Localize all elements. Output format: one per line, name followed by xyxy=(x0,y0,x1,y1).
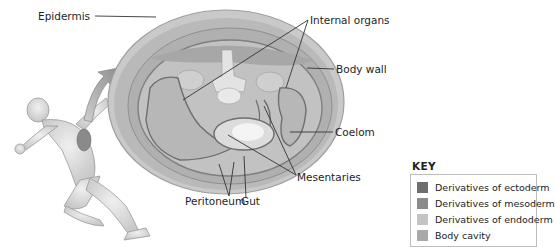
gut-on-figure xyxy=(77,129,91,151)
label-internal-organs: Internal organs xyxy=(310,14,390,26)
legend-item-endoderm: Derivatives of endoderm xyxy=(417,211,532,227)
swatch-endoderm xyxy=(417,214,428,225)
swatch-ectoderm xyxy=(417,182,428,193)
swatch-body-cavity xyxy=(417,230,428,241)
legend-label: Derivatives of endoderm xyxy=(435,214,553,225)
label-mesentaries: Mesentaries xyxy=(297,171,361,183)
legend-item-mesoderm: Derivatives of mesoderm xyxy=(417,195,532,211)
label-coelom: Coelom xyxy=(335,126,375,138)
torso-cross-section xyxy=(108,10,344,194)
legend-label: Derivatives of mesoderm xyxy=(435,198,555,209)
swatch-mesoderm xyxy=(417,198,428,209)
legend-box: Derivatives of ectoderm Derivatives of m… xyxy=(410,174,537,247)
label-body-wall: Body wall xyxy=(336,63,387,75)
label-peritoneum: Peritoneum xyxy=(185,195,245,207)
label-gut: Gut xyxy=(241,195,260,207)
legend-label: Derivatives of ectoderm xyxy=(435,182,550,193)
legend-title: KEY xyxy=(412,160,537,172)
legend: KEY Derivatives of ectoderm Derivatives … xyxy=(410,160,537,247)
legend-item-body-cavity: Body cavity xyxy=(417,227,532,243)
legend-label: Body cavity xyxy=(435,230,491,241)
legend-item-ectoderm: Derivatives of ectoderm xyxy=(417,179,532,195)
label-epidermis: Epidermis xyxy=(38,10,90,22)
